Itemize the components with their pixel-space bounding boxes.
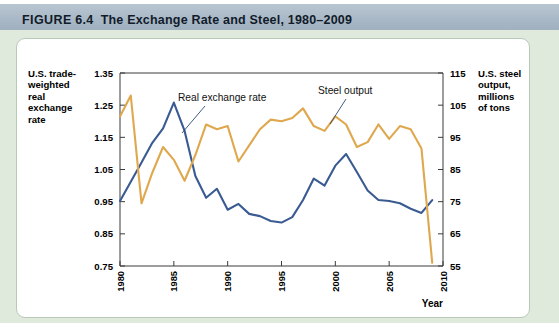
chart-series-group (120, 96, 432, 263)
series-annotation-leader-1 (330, 99, 346, 124)
right-tick-label-5: 65 (450, 228, 461, 239)
x-tick-label-6: 2010 (439, 271, 449, 292)
chart-plot-area: 1.351.251.151.050.950.850.75 11510595857… (0, 0, 559, 330)
x-tick-label-1: 1985 (169, 271, 179, 292)
series-annotation-real-exchange-rate: Real exchange rate (178, 92, 267, 103)
x-tick-label-0: 1980 (116, 271, 126, 292)
right-tick-label-1: 105 (450, 100, 467, 111)
x-tick-label-3: 1995 (277, 271, 287, 292)
right-tick-label-4: 75 (450, 196, 461, 207)
left-tick-label-1: 1.25 (94, 100, 113, 111)
plot-frame (120, 73, 443, 266)
chart-frame (120, 73, 443, 266)
right-tick-label-3: 85 (450, 164, 461, 175)
left-tick-label-6: 0.75 (94, 261, 113, 272)
series-annotation-leader-0 (182, 106, 205, 133)
left-tick-label-0: 1.35 (94, 68, 113, 79)
left-tick-label-2: 1.15 (94, 132, 113, 143)
left-tick-label-5: 0.85 (94, 228, 113, 239)
right-axis-ticks: 1151059585756555 (438, 68, 467, 272)
x-tick-label-4: 2000 (331, 271, 341, 292)
x-tick-label-2: 1990 (223, 271, 233, 292)
x-axis-label: Year (422, 298, 443, 309)
figure-root: FIGURE 6.4 The Exchange Rate and Steel, … (0, 0, 559, 330)
left-tick-label-4: 0.95 (94, 196, 113, 207)
right-tick-label-2: 95 (450, 132, 461, 143)
left-tick-label-3: 1.05 (94, 164, 113, 175)
right-tick-label-6: 55 (450, 261, 461, 272)
x-tick-label-5: 2005 (385, 271, 395, 292)
right-tick-label-0: 115 (450, 68, 466, 79)
chart-svg: 1.351.251.151.050.950.850.75 11510595857… (0, 0, 559, 330)
series-annotation-steel-output: Steel output (318, 85, 373, 96)
